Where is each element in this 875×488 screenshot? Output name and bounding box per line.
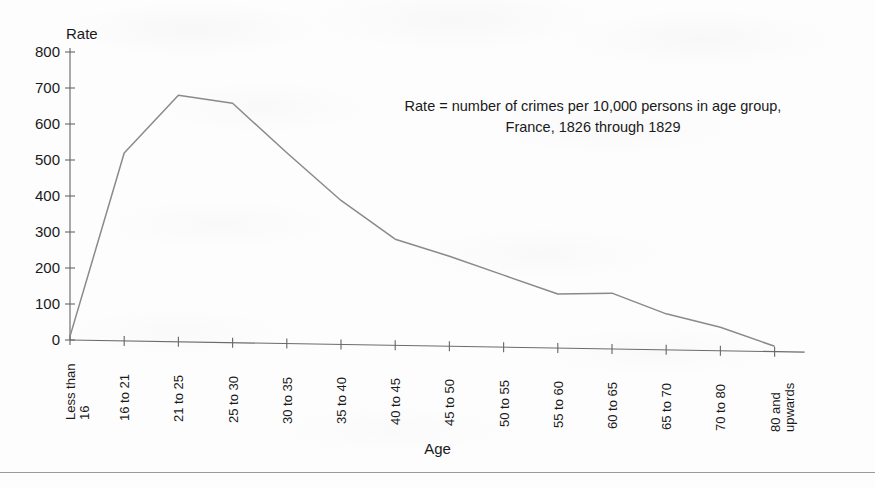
y-axis-tick-label: 600 <box>14 116 60 131</box>
x-axis-tick-label: 60 to 65 <box>606 382 620 429</box>
x-axis-tick-label-line: 40 to 45 <box>389 378 403 425</box>
x-axis-tick-label: 70 to 80 <box>714 384 728 431</box>
chart-axes <box>65 48 805 357</box>
x-axis-tick-label: 30 to 35 <box>281 377 295 424</box>
y-axis-tick-label: 500 <box>14 152 60 167</box>
x-axis-tick-label: 55 to 60 <box>552 381 566 428</box>
annotation-line: France, 1826 through 1829 <box>358 117 828 138</box>
y-axis-tick-label: 400 <box>14 188 60 203</box>
x-axis-tick-label: 25 to 30 <box>227 376 241 423</box>
x-axis-tick-label-line: 50 to 55 <box>498 380 512 427</box>
x-axis-tick-label-line: 35 to 40 <box>335 377 349 424</box>
y-axis-tick-label: 700 <box>14 80 60 95</box>
annotation-line: Rate = number of crimes per 10,000 perso… <box>358 96 828 117</box>
x-axis-tick-label-line: 80 and <box>769 382 783 431</box>
x-axis-tick-label: 65 to 70 <box>660 383 674 430</box>
x-axis-tick-label-line: 30 to 35 <box>281 377 295 424</box>
chart-annotation-note: Rate = number of crimes per 10,000 perso… <box>358 96 828 138</box>
x-axis-tick-label: 16 to 21 <box>118 374 132 421</box>
x-axis-tick-label-line: 16 to 21 <box>118 374 132 421</box>
x-axis-tick-label-line: 55 to 60 <box>552 381 566 428</box>
x-axis-tick-label: 50 to 55 <box>498 380 512 427</box>
x-axis-tick-label-line: 16 <box>78 364 92 420</box>
x-axis-tick-label: Less than16 <box>64 364 92 420</box>
x-axis-tick-label-line: 60 to 65 <box>606 382 620 429</box>
x-axis-tick-label-line: 45 to 50 <box>443 379 457 426</box>
x-axis-tick-label-line: Less than <box>64 364 78 420</box>
page-bottom-rule <box>0 472 875 473</box>
x-axis-title: Age <box>0 440 875 457</box>
x-axis-tick-label-line: 25 to 30 <box>227 376 241 423</box>
y-axis-tick-label: 100 <box>14 296 60 311</box>
x-axis-line <box>70 340 805 352</box>
x-axis-tick-label: 45 to 50 <box>443 379 457 426</box>
x-axis-tick-label-line: 65 to 70 <box>660 383 674 430</box>
y-axis-tick-label: 300 <box>14 224 60 239</box>
y-axis-title: Rate <box>66 25 98 42</box>
x-axis-tick-label: 40 to 45 <box>389 378 403 425</box>
x-axis-tick-label-line: 70 to 80 <box>714 384 728 431</box>
y-axis-tick-label: 0 <box>14 332 60 347</box>
x-axis-tick-label: 21 to 25 <box>172 375 186 422</box>
y-axis-tick-label: 200 <box>14 260 60 275</box>
y-axis-tick-label: 800 <box>14 44 60 59</box>
x-axis-tick-label: 35 to 40 <box>335 377 349 424</box>
x-axis-tick-label-line: 21 to 25 <box>172 375 186 422</box>
x-axis-tick-label: 80 andupwards <box>769 382 797 431</box>
x-axis-tick-label-line: upwards <box>783 382 797 431</box>
